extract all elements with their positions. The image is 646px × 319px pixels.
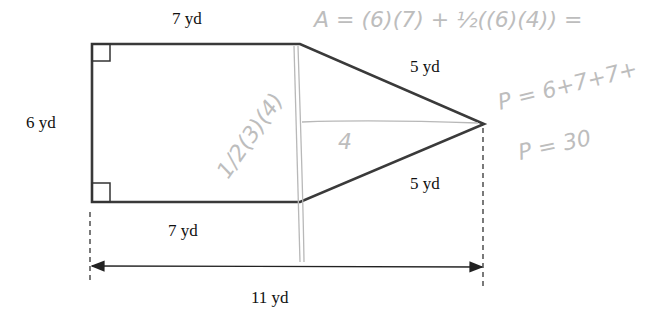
label-lower-slant: 5 yd xyxy=(410,174,440,193)
pencil-perimeter-result: P = 30 xyxy=(516,125,593,165)
label-left: 6 yd xyxy=(26,113,56,132)
pencil-triangle-note: 1/2(3)(4) xyxy=(212,88,289,182)
label-total-width: 11 yd xyxy=(251,288,289,307)
pencil-height-line xyxy=(302,121,478,123)
width-dimension-arrow xyxy=(92,266,482,267)
right-angle-mark-top xyxy=(92,44,110,61)
label-bottom: 7 yd xyxy=(168,221,198,240)
pencil-perimeter-formula: P = 6+7+7+ xyxy=(495,56,640,115)
label-upper-slant: 5 yd xyxy=(410,57,440,76)
right-angle-mark-bottom xyxy=(92,183,110,202)
geometry-diagram: 7 yd 6 yd 7 yd 5 yd 5 yd 11 yd A = (6)(7… xyxy=(0,0,646,319)
label-top: 7 yd xyxy=(172,9,202,28)
pencil-height-note: 4 xyxy=(338,129,352,154)
pencil-area-formula: A = (6)(7) + ½((6)(4)) = xyxy=(312,7,582,32)
